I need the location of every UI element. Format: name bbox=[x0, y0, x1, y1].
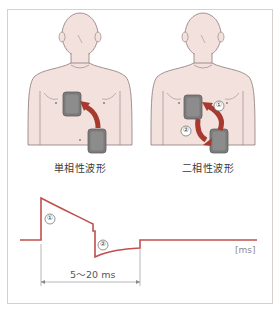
phase-marker-2: ② bbox=[98, 240, 108, 248]
torso-biphasic bbox=[151, 13, 255, 153]
monophasic-label: 単相性波形 bbox=[30, 160, 130, 175]
electrode-pad-lower bbox=[210, 129, 228, 153]
duration-label: 5〜20 ms bbox=[70, 267, 115, 281]
arrow-marker-2: ② bbox=[181, 126, 191, 134]
electrode-pad-upper bbox=[63, 92, 81, 116]
torso-monophasic bbox=[28, 13, 132, 153]
arrow-marker-1: ① bbox=[214, 101, 224, 109]
electrode-pad-lower bbox=[88, 129, 106, 153]
illustration bbox=[0, 0, 276, 312]
electrode-pad-upper bbox=[184, 95, 202, 119]
unit-label: [ms] bbox=[235, 245, 255, 255]
biphasic-label: 二相性波形 bbox=[158, 160, 258, 175]
phase-marker-1: ① bbox=[45, 214, 55, 222]
waveform-line bbox=[20, 198, 257, 257]
